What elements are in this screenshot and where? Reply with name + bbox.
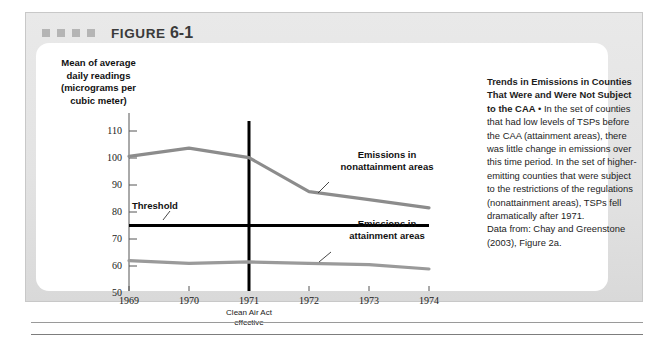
caption-separator: • xyxy=(535,103,544,114)
figure-root: FIGURE 6-1 Mean of average daily reading… xyxy=(0,0,666,347)
nonattainment-series-label-line: Emissions in xyxy=(322,149,452,161)
attainment-leader-line xyxy=(319,252,331,262)
x-axis-sublabel-line: effective xyxy=(204,318,294,328)
figure-caption: Trends in Emissions in Counties That Wer… xyxy=(487,75,639,249)
y-tick-label: 70 xyxy=(92,233,122,244)
figure-label: FIGURE xyxy=(111,26,166,41)
divider-rule-bottom xyxy=(31,334,643,335)
figure-header: FIGURE 6-1 xyxy=(42,23,193,43)
x-axis-sublabel: Clean Air Act effective xyxy=(204,308,294,328)
nonattainment-leader-line xyxy=(318,182,329,193)
x-tick-label: 1972 xyxy=(281,295,337,306)
attainment-series-label-line: attainment areas xyxy=(326,230,448,242)
bullet-square-icon xyxy=(42,29,50,37)
x-tick-label: 1974 xyxy=(401,295,457,306)
y-tick-label: 100 xyxy=(92,152,122,163)
x-tick-label: 1969 xyxy=(101,295,157,306)
figure-panel: FIGURE 6-1 Mean of average daily reading… xyxy=(25,12,643,302)
bullet-square-icon xyxy=(87,29,95,37)
nonattainment-series-label-line: nonattainment areas xyxy=(322,161,452,173)
x-axis-sublabel-line: Clean Air Act xyxy=(204,308,294,318)
x-tick-label: 1970 xyxy=(161,295,217,306)
nonattainment-series-label: Emissions in nonattainment areas xyxy=(322,149,452,173)
caption-body: In the set of counties that had low leve… xyxy=(487,103,637,221)
series-attainment-line xyxy=(129,261,429,269)
figure-number: 6-1 xyxy=(170,24,193,41)
x-tick-label: 1973 xyxy=(341,295,397,306)
y-tick-label: 80 xyxy=(92,206,122,217)
bullet-square-icon xyxy=(57,29,65,37)
threshold-leader-line xyxy=(163,211,170,220)
y-tick-label: 60 xyxy=(92,260,122,271)
x-tick-label: 1971 xyxy=(221,295,277,306)
attainment-series-label: Emissions in attainment areas xyxy=(326,218,448,242)
attainment-series-label-line: Emissions in xyxy=(326,218,448,230)
bullet-square-icon xyxy=(72,29,80,37)
divider-rule-top xyxy=(31,322,643,323)
x-axis-ticks xyxy=(129,286,429,291)
y-tick-label: 110 xyxy=(92,125,122,136)
caption-source: Data from: Chay and Greenstone (2003), F… xyxy=(487,222,639,249)
y-tick-label: 90 xyxy=(92,179,122,190)
figure-title: FIGURE 6-1 xyxy=(111,24,193,42)
threshold-label: Threshold xyxy=(132,200,178,211)
caption-text: Trends in Emissions in Counties That Wer… xyxy=(487,75,639,222)
